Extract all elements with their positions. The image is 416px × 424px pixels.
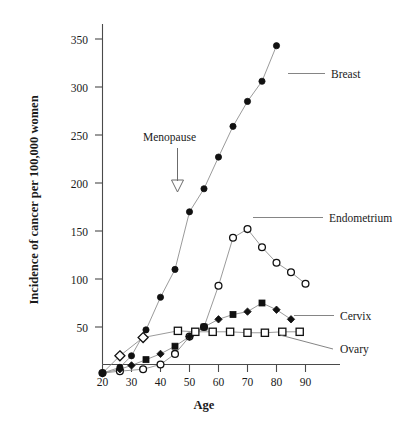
series-markers-breast (99, 43, 279, 377)
data-point-marker (288, 269, 295, 276)
data-point-marker (261, 329, 268, 336)
data-point-marker (172, 343, 178, 349)
series-label-cervix-group: Cervix (294, 310, 372, 322)
x-tick-label-40: 40 (155, 376, 167, 388)
x-tick-label-50: 50 (184, 376, 196, 388)
menopause-label: Menopause (143, 131, 196, 144)
data-point-marker (230, 123, 236, 129)
data-point-marker (244, 329, 251, 336)
data-point-marker (143, 357, 149, 363)
series-label-endometrium-group: Endometrium (253, 212, 392, 224)
data-point-marker (244, 226, 251, 233)
y-tick-label-300: 300 (71, 82, 89, 94)
y-tick-label-150: 150 (71, 226, 89, 238)
data-point-marker (157, 350, 164, 357)
series-line-endometrium (103, 229, 306, 373)
data-point-marker (273, 259, 280, 266)
x-axis-title: Age (194, 398, 215, 412)
data-point-marker (157, 294, 163, 300)
data-point-marker (215, 154, 221, 160)
leader-line-ovary (280, 335, 333, 349)
data-point-marker (143, 327, 149, 333)
x-tick-label-30: 30 (126, 376, 138, 388)
data-point-marker (230, 234, 237, 241)
incidence-of-cancer-line-chart: 350 300 250 200 150 100 50 20 30 40 50 6… (0, 0, 416, 424)
data-point-marker (259, 78, 265, 84)
data-point-marker (140, 366, 147, 373)
data-point-marker (174, 327, 181, 334)
data-point-marker (230, 312, 236, 318)
data-point-marker (227, 328, 234, 335)
y-tick-label-50: 50 (77, 322, 89, 334)
chart-figure: 350 300 250 200 150 100 50 20 30 40 50 6… (0, 0, 416, 424)
data-point-marker (273, 306, 280, 313)
x-tick-label-70: 70 (242, 376, 254, 388)
y-tick-marks (95, 39, 103, 327)
x-tick-label-90: 90 (300, 376, 312, 388)
series-label-ovary-group: Ovary (280, 335, 369, 356)
data-point-marker (128, 353, 134, 359)
series-label-breast-group: Breast (288, 68, 361, 80)
data-point-marker (244, 98, 250, 104)
data-point-marker (99, 370, 105, 376)
y-tick-label-350: 350 (71, 34, 89, 46)
series-label-endometrium: Endometrium (329, 212, 392, 224)
x-tick-label-20: 20 (97, 376, 109, 388)
series-label-ovary: Ovary (340, 343, 369, 356)
y-axis-title: Incidence of cancer per 100,000 women (27, 95, 41, 304)
data-point-marker (259, 300, 265, 306)
series-markers-ovary (99, 327, 303, 376)
data-point-marker (172, 266, 178, 272)
series-label-breast: Breast (331, 68, 361, 80)
x-tick-label-60: 60 (213, 376, 225, 388)
data-point-marker (215, 282, 222, 289)
data-point-marker (259, 244, 266, 251)
series-markers-cervix (99, 300, 295, 377)
x-tick-labels: 20 30 40 50 60 70 80 90 (97, 376, 312, 388)
y-tick-labels: 350 300 250 200 150 100 50 (71, 34, 89, 334)
data-point-marker (302, 280, 309, 287)
menopause-annotation: Menopause (143, 131, 196, 192)
data-point-marker (128, 362, 135, 369)
data-point-marker (172, 350, 179, 357)
y-tick-label-100: 100 (71, 274, 89, 286)
data-point-marker (201, 186, 207, 192)
data-point-marker (186, 209, 192, 215)
axes-group (103, 24, 341, 365)
data-point-marker (215, 316, 222, 323)
data-point-marker (296, 328, 303, 335)
data-point-marker (192, 328, 199, 335)
y-tick-label-250: 250 (71, 130, 89, 142)
x-tick-label-80: 80 (271, 376, 283, 388)
y-tick-label-200: 200 (71, 178, 89, 190)
data-point-marker (201, 324, 207, 330)
data-point-marker (244, 308, 251, 315)
data-point-marker (279, 328, 286, 335)
data-point-marker (287, 316, 294, 323)
data-point-marker (273, 43, 279, 49)
data-point-marker (157, 361, 164, 368)
menopause-arrow-head (172, 180, 184, 192)
series-label-cervix: Cervix (340, 310, 372, 322)
data-point-marker (209, 328, 216, 335)
